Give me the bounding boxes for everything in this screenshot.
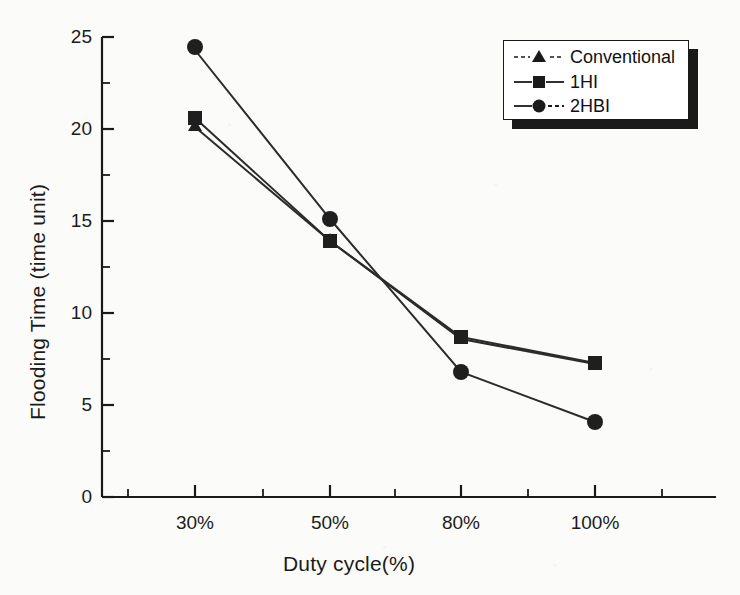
y-tick-label: 25: [52, 26, 92, 48]
x-minor-ticks: [128, 489, 662, 497]
x-tick-label: 80%: [426, 512, 496, 534]
legend-label: 1HI: [570, 72, 598, 93]
x-tick-label: 100%: [560, 512, 630, 534]
series-line-1hi: [195, 118, 595, 363]
y-tick-label: 10: [52, 302, 92, 324]
y-tick-label: 5: [52, 394, 92, 416]
legend-box: Conventional 1HI: [503, 40, 689, 120]
x-axis-title: Duty cycle(%): [283, 552, 415, 576]
series-line-conventional: [195, 127, 595, 364]
square-marker-icon: [512, 72, 566, 92]
x-tick-label: 50%: [295, 512, 365, 534]
chart-legend: Conventional 1HI: [503, 40, 689, 120]
series-markers-conventional: [188, 119, 602, 368]
legend-label: 2HBI: [570, 96, 610, 117]
y-axis-title: Flooding Time (time unit): [26, 184, 50, 420]
chart-page: 25 20 15 10 5 0 30% 50% 80% 100% Floodin…: [0, 0, 740, 595]
y-tick-label: 0: [52, 486, 92, 508]
y-minor-ticks: [102, 83, 110, 451]
legend-item-conventional[interactable]: Conventional: [512, 44, 675, 70]
y-tick-label: 15: [52, 210, 92, 232]
legend-label: Conventional: [570, 47, 675, 68]
series-markers-1hi: [188, 111, 602, 370]
legend-item-2hbi[interactable]: 2HBI: [512, 93, 610, 119]
y-tick-label: 20: [52, 118, 92, 140]
x-tick-label: 30%: [160, 512, 230, 534]
triangle-marker-icon: [512, 47, 566, 67]
legend-item-1hi[interactable]: 1HI: [512, 69, 598, 95]
circle-marker-icon: [512, 96, 566, 116]
